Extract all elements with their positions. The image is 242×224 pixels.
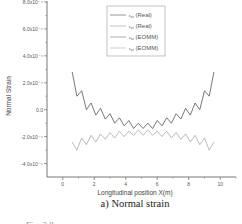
x-tick-label: 4 (124, 181, 127, 187)
y-tick-label: 8.0x10⁻⁴ (23, 0, 43, 5)
y-tick-label: 6.0x10⁻⁴ (23, 26, 43, 32)
series-line-0 (72, 72, 214, 129)
chart-caption: a) Normal strain (0, 198, 242, 209)
series-line-1 (72, 130, 214, 150)
y-tick-label: -2.0x10⁻⁴ (21, 134, 43, 140)
y-tick-label: 4.0x10⁻⁴ (23, 53, 43, 59)
x-tick-label: 8 (187, 181, 190, 187)
legend-label: εxx (EOMM) (129, 34, 158, 41)
x-tick-label: 0 (61, 181, 64, 187)
x-tick-label: 10 (217, 181, 223, 187)
y-axis-title: Normal Strain (5, 76, 12, 116)
x-axis-title: Longitudinal position X(m) (97, 189, 172, 197)
normal-strain-chart: -4.0x10⁻⁴-2.0x10⁻⁴0.02.0x10⁻⁴4.0x10⁻⁴6.0… (0, 0, 242, 224)
series-group (72, 72, 214, 150)
x-tick-label: 2 (93, 181, 96, 187)
y-tick-label: 2.0x10⁻⁴ (23, 80, 43, 86)
y-tick-label: 0.0 (36, 107, 43, 113)
x-tick-label: 6 (156, 181, 159, 187)
legend-label: εzz (EOMM) (129, 45, 158, 52)
figure-label-cut: Fig. 3.8 ... (26, 217, 156, 224)
y-tick-label: -4.0x10⁻⁴ (21, 161, 43, 167)
legend: εxx (Real)εzz (Real)εxx (EOMM)εzz (EOMM) (107, 6, 165, 56)
